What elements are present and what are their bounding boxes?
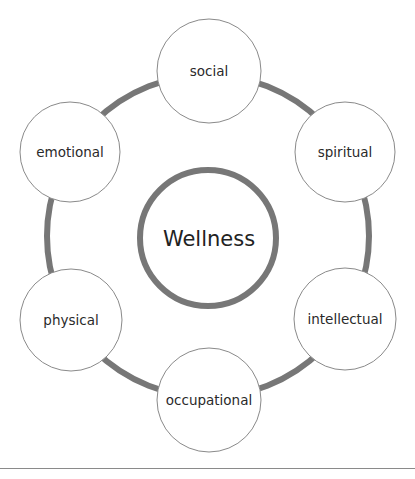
- horizontal-rule: [0, 468, 415, 469]
- node-occupational: occupational: [157, 348, 261, 452]
- node-spiritual: spiritual: [295, 102, 395, 202]
- node-label-occupational: occupational: [166, 392, 252, 408]
- node-label-social: social: [190, 63, 229, 79]
- node-label-emotional: emotional: [36, 144, 104, 160]
- node-social: social: [157, 19, 261, 123]
- center-label: Wellness: [163, 227, 255, 251]
- node-physical: physical: [20, 269, 122, 371]
- node-emotional: emotional: [20, 102, 120, 202]
- node-label-spiritual: spiritual: [318, 144, 373, 160]
- node-intellectual: intellectual: [294, 268, 396, 370]
- node-label-physical: physical: [43, 312, 98, 328]
- node-label-intellectual: intellectual: [307, 311, 382, 327]
- wellness-diagram: Wellness social spiritual intellectual o…: [0, 0, 415, 479]
- clipped-bottom-text: [0, 470, 415, 479]
- center-node: Wellness: [140, 170, 276, 306]
